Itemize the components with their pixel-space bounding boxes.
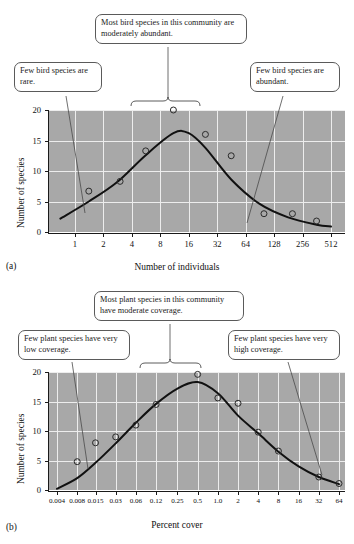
- panel-a: Few bird species are rare. Most bird spe…: [0, 0, 354, 282]
- x-tick-label: 32: [213, 239, 222, 249]
- x-tick-label: 2: [236, 497, 240, 505]
- x-tick-mark: [278, 491, 279, 495]
- x-tick-label: 0.03: [109, 497, 121, 505]
- callout-rare: Few bird species are rare.: [14, 62, 102, 92]
- x-tick-label: 0.12: [150, 497, 162, 505]
- x-axis-a: [48, 233, 345, 234]
- y-tick-mark: [45, 232, 49, 233]
- x-tick-mark: [160, 233, 161, 237]
- y-tick-mark: [45, 372, 49, 373]
- x-tick-label: 16: [295, 497, 302, 505]
- data-point-marker: [170, 107, 176, 113]
- x-tick-label: 0.5: [193, 497, 202, 505]
- data-point-marker: [215, 395, 221, 401]
- x-tick-mark: [319, 491, 320, 495]
- x-tick-mark: [331, 233, 332, 237]
- y-tick-label: 0: [19, 227, 41, 237]
- x-tick-mark: [218, 491, 219, 495]
- x-tick-label: 0.06: [130, 497, 142, 505]
- y-tick-mark: [45, 141, 49, 142]
- x-tick-label: 2: [101, 239, 105, 249]
- x-tick-label: 8: [158, 239, 162, 249]
- callout-high-coverage: Few plant species have very high coverag…: [228, 330, 340, 360]
- x-tick-mark: [217, 233, 218, 237]
- y-tick-mark: [45, 461, 49, 462]
- x-tick-label: 16: [184, 239, 193, 249]
- x-axis-b: [48, 491, 345, 492]
- y-tick-mark: [45, 171, 49, 172]
- x-tick-mark: [177, 491, 178, 495]
- y-tick-label: 10: [19, 166, 41, 176]
- x-tick-label: 128: [268, 239, 281, 249]
- callout-moderate-coverage: Most plant species in this community hav…: [94, 291, 244, 321]
- x-tick-mark: [189, 233, 190, 237]
- x-tick-label: 512: [325, 239, 338, 249]
- x-tick-mark: [274, 233, 275, 237]
- y-tick-mark: [45, 431, 49, 432]
- data-layer-a: [49, 110, 345, 232]
- y-tick-label: 15: [19, 136, 41, 146]
- data-point-marker: [195, 371, 201, 377]
- data-point-marker: [202, 131, 208, 137]
- x-tick-label: 256: [296, 239, 309, 249]
- x-tick-label: 4: [130, 239, 134, 249]
- y-tick-label: 5: [19, 456, 41, 466]
- data-point-marker: [86, 188, 92, 194]
- x-tick-mark: [299, 491, 300, 495]
- y-tick-label: 20: [19, 367, 41, 377]
- data-point-marker: [143, 148, 149, 154]
- x-tick-label: 0.004: [49, 497, 65, 505]
- x-tick-mark: [75, 233, 76, 237]
- x-tick-mark: [136, 491, 137, 495]
- data-point-marker: [314, 218, 320, 224]
- x-tick-mark: [258, 491, 259, 495]
- x-axis-label-a: Number of individuals: [0, 262, 354, 272]
- data-point-marker: [289, 211, 295, 217]
- data-layer-b: [49, 372, 345, 490]
- x-tick-mark: [132, 233, 133, 237]
- callout-moderate: Most bird species in this community are …: [95, 14, 247, 44]
- y-tick-mark: [45, 202, 49, 203]
- x-tick-label: 4: [256, 497, 260, 505]
- data-point-marker: [93, 440, 99, 446]
- y-tick-mark: [45, 110, 49, 111]
- y-tick-label: 20: [19, 105, 41, 115]
- panel-label-a: (a): [6, 261, 16, 271]
- y-tick-label: 10: [19, 426, 41, 436]
- y-tick-mark: [45, 402, 49, 403]
- x-tick-mark: [96, 491, 97, 495]
- x-tick-label: 0.008: [69, 497, 85, 505]
- x-tick-mark: [339, 491, 340, 495]
- x-tick-mark: [198, 491, 199, 495]
- callout-abundant: Few bird species are abundant.: [250, 62, 340, 92]
- x-tick-label: 8: [277, 497, 281, 505]
- data-point-marker: [113, 434, 119, 440]
- x-tick-mark: [156, 491, 157, 495]
- x-tick-label: 1.0: [213, 497, 222, 505]
- y-tick-label: 5: [19, 197, 41, 207]
- x-tick-mark: [103, 233, 104, 237]
- x-tick-mark: [57, 491, 58, 495]
- x-tick-label: 32: [315, 497, 322, 505]
- x-tick-label: 1: [73, 239, 77, 249]
- x-tick-label: 64: [335, 497, 342, 505]
- y-tick-label: 15: [19, 397, 41, 407]
- data-point-marker: [228, 153, 234, 159]
- x-tick-mark: [77, 491, 78, 495]
- x-tick-label: 64: [241, 239, 250, 249]
- x-axis-label-b: Percent cover: [0, 520, 354, 530]
- data-point-marker: [235, 400, 241, 406]
- x-tick-mark: [246, 233, 247, 237]
- data-point-marker: [74, 459, 80, 465]
- y-tick-label: 0: [19, 485, 41, 495]
- data-point-marker: [261, 211, 267, 217]
- x-tick-mark: [303, 233, 304, 237]
- x-tick-label: 0.015: [88, 497, 104, 505]
- panel-b: Few plant species have very low coverage…: [0, 282, 354, 544]
- x-tick-mark: [116, 491, 117, 495]
- x-tick-label: 0.25: [171, 497, 183, 505]
- y-tick-mark: [45, 490, 49, 491]
- panel-label-b: (b): [6, 522, 17, 532]
- x-tick-mark: [238, 491, 239, 495]
- figure-container: Few bird species are rare. Most bird spe…: [0, 0, 354, 544]
